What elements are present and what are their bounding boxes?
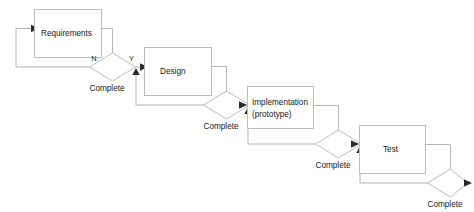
diagram-canvas: Requirements N Y Complete Design Complet… xyxy=(0,0,474,212)
test-decision-diamond[interactable] xyxy=(428,169,468,197)
test-box-label: Test xyxy=(383,145,399,154)
requirements-branch-no-label: N xyxy=(91,54,96,63)
implementation-decision-label: Complete xyxy=(315,161,350,170)
implementation-box[interactable] xyxy=(248,87,314,129)
implementation-box-label: Implementation xyxy=(252,98,308,107)
implementation-to-decision-path xyxy=(314,106,339,131)
requirements-box-label: Requirements xyxy=(41,29,92,38)
design-feedback-arrowhead xyxy=(132,68,139,75)
design-box-label: Design xyxy=(160,67,186,76)
design-to-decision-path xyxy=(212,67,227,92)
flowchart-svg: Requirements N Y Complete Design Complet… xyxy=(0,0,474,212)
implementation-box-sublabel: (prototype) xyxy=(252,110,292,119)
test-to-decision-path xyxy=(426,145,451,170)
requirements-to-decision-path xyxy=(102,29,113,54)
design-decision-label: Complete xyxy=(203,122,238,131)
requirements-decision-label: Complete xyxy=(89,84,124,93)
requirements-branch-yes-label: Y xyxy=(129,54,134,63)
final-exit-arrowhead xyxy=(464,179,472,186)
test-decision-label: Complete xyxy=(427,200,462,209)
